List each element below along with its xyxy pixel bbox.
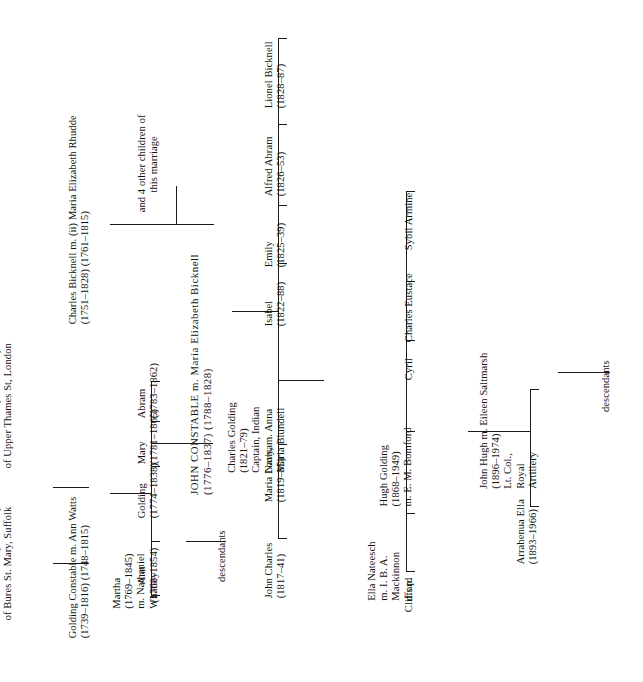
note-descendants-john-hugh: descendants	[600, 348, 612, 424]
person-line: Sybil Armine	[403, 150, 415, 250]
person-charles-eustace: Charles Eustace	[403, 236, 415, 342]
person-line: (1769–1845)	[123, 517, 135, 609]
person-abram: Abram (1783–1862)	[136, 328, 160, 418]
person-line: m. I. B. A.	[378, 509, 390, 601]
person-lionel-bicknell: Lionel Bicknell (1828–87)	[263, 4, 287, 108]
person-john-constable-painter: JOHN CONSTABLE m. Maria Elizabeth Bickne…	[188, 165, 213, 495]
person-line: Abram	[136, 328, 148, 418]
person-line: m. E. M. Bomford	[403, 399, 415, 507]
person-john-charles: John Charles (1817–41)	[263, 498, 287, 598]
note-line: and 4 other children of	[136, 116, 148, 212]
person-line: Lionel Bicknell	[263, 4, 275, 108]
family-tree-chart: John Constable (1705–77) of Bures St. Ma…	[0, 0, 643, 682]
person-line: Ella Nateesch	[366, 509, 378, 601]
person-martha: Martha (1769–1845) m. Nathaniel Whalley	[111, 517, 160, 609]
person-charles-bicknell: Charles Bicknell m. (ii) Maria Elizabeth…	[67, 0, 91, 324]
person-alfred-abram: Alfred Abram (1826–53)	[263, 96, 287, 196]
person-line: Royal	[515, 279, 527, 489]
person-line: Martha	[111, 517, 123, 609]
person-line: (1826–53)	[275, 96, 287, 196]
person-line: JOHN CONSTABLE m. Maria Elizabeth Bickne…	[188, 165, 201, 495]
person-line: (1783–1862)	[148, 328, 160, 418]
person-line: Golding Constable m. Ann Watts	[67, 338, 79, 638]
person-line: (1776–1837) (1788–1828)	[200, 165, 213, 495]
person-line: (1828–87)	[275, 4, 287, 108]
person-line: Charles Golding	[226, 361, 238, 473]
person-line: (1739–1816) (1748–1815)	[79, 338, 91, 638]
note-other-bicknell-children: and 4 other children of this marriage	[136, 116, 160, 212]
person-line: Alfred Abram	[263, 96, 275, 196]
note-line: descendants	[216, 520, 228, 592]
person-line: John Hugh m. Eileen Saltmarsh	[478, 279, 490, 489]
person-line: m. Nathaniel	[136, 517, 148, 609]
person-line: Maria Blundell	[275, 361, 287, 473]
person-line: Artillery	[527, 279, 539, 489]
person-line: Whalley	[148, 517, 160, 609]
person-line: d.s.p.	[403, 509, 415, 601]
person-line: Mackinnon	[391, 509, 403, 601]
person-line: Charles Bicknell m. (ii) Maria Elizabeth…	[67, 0, 79, 324]
note-descendants-martha: descendants	[216, 520, 228, 592]
stub-other-bicknell-children	[176, 186, 177, 225]
person-line: Lt. Col.,	[502, 279, 514, 489]
person-line: (1868–1949)	[391, 399, 403, 507]
person-line: Charles Eustace	[403, 236, 415, 342]
note-line: descendants	[600, 348, 612, 424]
person-charles-golding: Charles Golding (1821–79) Captain, India…	[226, 361, 287, 473]
person-line: Captain, Indian	[250, 361, 262, 473]
person-line: (1896–1974)	[490, 279, 502, 489]
person-line: (1821–79)	[238, 361, 250, 473]
person-ella-nateesch: Ella Nateesch m. I. B. A. Mackinnon d.s.…	[366, 509, 415, 601]
person-john-hugh: John Hugh m. Eileen Saltmarsh (1896–1974…	[478, 279, 539, 489]
person-hugh-golding: Hugh Golding (1868–1949) m. E. M. Bomfor…	[378, 399, 415, 507]
person-line: (1751–1828) (1761–1815)	[79, 0, 91, 324]
person-golding-constable: Golding Constable m. Ann Watts (1739–181…	[67, 338, 91, 638]
person-line: of Upper Thames St, London	[2, 208, 14, 468]
person-sybil-armine: Sybil Armine	[403, 150, 415, 250]
person-william-watts: William Watts (c. 1717–73) of Upper Tham…	[0, 208, 14, 468]
person-line: (1817–41)	[275, 498, 287, 598]
person-line: Navy, m. Anna	[263, 361, 275, 473]
note-line: this marriage	[148, 116, 160, 212]
person-line: John Charles	[263, 498, 275, 598]
person-line: Hugh Golding	[378, 399, 390, 507]
